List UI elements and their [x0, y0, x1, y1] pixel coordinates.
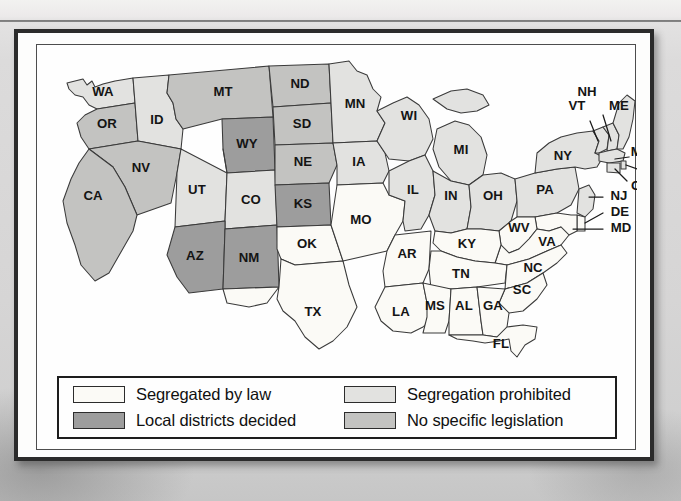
state-label-NM: NM: [239, 250, 260, 265]
state-label-CO: CO: [241, 192, 261, 207]
state-label-LA: LA: [392, 304, 410, 319]
state-label-MT: MT: [213, 84, 232, 99]
legend-label-segregated-by-law: Segregated by law: [136, 385, 271, 404]
state-label-CT: CT: [631, 178, 637, 193]
state-label-WI: WI: [401, 108, 417, 123]
state-label-MD: MD: [611, 220, 632, 235]
us-map: WA OR ID MT ND SD MN WI WY NV CA UT CO N…: [37, 45, 637, 365]
state-label-OR: OR: [97, 116, 117, 131]
state-label-MI: MI: [454, 142, 469, 157]
state-label-NV: NV: [132, 160, 151, 175]
state-label-ME: ME: [609, 98, 629, 113]
state-label-UT: UT: [188, 182, 206, 197]
state-label-NE: NE: [294, 154, 313, 169]
state-label-IA: IA: [352, 154, 366, 169]
legend-swatch-local-districts-decided: [73, 412, 125, 429]
state-label-GA: GA: [483, 298, 503, 313]
state-label-VA: VA: [538, 234, 556, 249]
state-label-NY: NY: [554, 148, 573, 163]
us-map-svg: WA OR ID MT ND SD MN WI WY NV CA UT CO N…: [37, 45, 637, 365]
state-label-IL: IL: [407, 182, 419, 197]
state-label-SC: SC: [513, 282, 532, 297]
state-label-MS: MS: [425, 298, 445, 313]
state-label-MN: MN: [345, 96, 366, 111]
legend-item-segregated-by-law[interactable]: Segregated by law: [73, 385, 344, 404]
figure-frame: WA OR ID MT ND SD MN WI WY NV CA UT CO N…: [14, 29, 654, 461]
figure-inner-border: WA OR ID MT ND SD MN WI WY NV CA UT CO N…: [36, 44, 636, 450]
state-label-OK: OK: [297, 236, 317, 251]
state-label-NH: NH: [577, 84, 596, 99]
legend-swatch-segregated-by-law: [73, 386, 125, 403]
state-label-OH: OH: [483, 188, 503, 203]
state-label-AL: AL: [455, 298, 473, 313]
state-label-TN: TN: [452, 266, 470, 281]
legend-swatch-segregation-prohibited: [344, 386, 396, 403]
state-label-WV: WV: [508, 220, 530, 235]
state-label-FL: FL: [493, 336, 509, 351]
state-label-MO: MO: [350, 212, 371, 227]
legend-item-no-specific-legislation[interactable]: No specific legislation: [344, 411, 615, 430]
page-horizontal-rule: [0, 20, 681, 22]
state-label-AZ: AZ: [186, 248, 204, 263]
state-label-KY: KY: [458, 236, 477, 251]
state-RI[interactable]: [621, 161, 626, 169]
state-label-AR: AR: [397, 246, 417, 261]
legend-label-no-specific-legislation: No specific legislation: [407, 411, 563, 430]
state-label-WY: WY: [236, 136, 258, 151]
state-label-CA: CA: [83, 188, 103, 203]
state-label-ND: ND: [290, 76, 309, 91]
state-label-VT: VT: [568, 98, 585, 113]
state-label-NJ: NJ: [610, 188, 627, 203]
state-NJ[interactable]: [577, 185, 595, 217]
leader-line-RI: [626, 165, 637, 169]
state-label-TX: TX: [304, 304, 321, 319]
state-label-SD: SD: [293, 116, 312, 131]
legend-swatch-no-specific-legislation: [344, 412, 396, 429]
state-WI[interactable]: [377, 97, 433, 161]
legend-item-segregation-prohibited[interactable]: Segregation prohibited: [344, 385, 615, 404]
legend-label-segregation-prohibited: Segregation prohibited: [407, 385, 571, 404]
state-label-WA: WA: [92, 84, 114, 99]
map-legend: Segregated by law Segregation prohibited…: [57, 376, 617, 439]
state-label-IN: IN: [444, 188, 457, 203]
legend-label-local-districts-decided: Local districts decided: [136, 411, 296, 430]
state-MI[interactable]: [433, 89, 489, 185]
state-label-DE: DE: [611, 204, 630, 219]
state-label-ID: ID: [150, 112, 163, 127]
leader-line-CT: [615, 169, 627, 181]
state-label-MA: MA: [631, 144, 637, 159]
state-label-PA: PA: [536, 182, 554, 197]
state-label-KS: KS: [294, 196, 313, 211]
state-label-NC: NC: [523, 260, 543, 275]
legend-item-local-districts-decided[interactable]: Local districts decided: [73, 411, 344, 430]
